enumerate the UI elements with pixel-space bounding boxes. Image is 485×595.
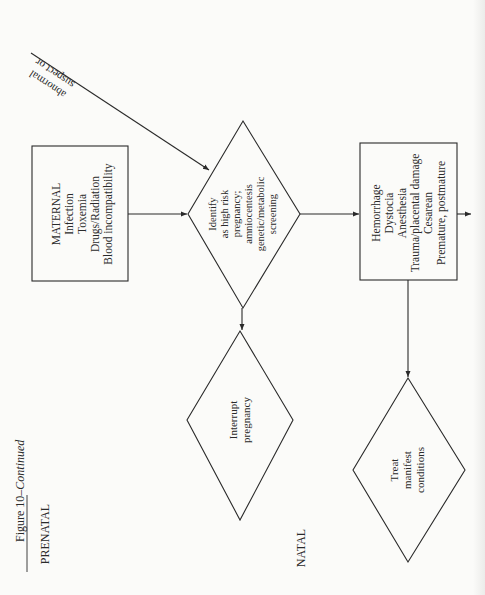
treat-line: Treat xyxy=(388,430,401,510)
treat-line: manifest xyxy=(401,430,414,510)
maternal-item: Blood incompatibility xyxy=(102,146,115,282)
identify-line: Identify xyxy=(207,169,219,259)
section-label-prenatal: PRENATAL xyxy=(38,499,52,569)
maternal-item: Toxemia xyxy=(76,146,89,282)
interrupt-line: pregnancy xyxy=(240,380,253,460)
maternal-item: Infection xyxy=(63,146,76,282)
identify-line: pregnancy; xyxy=(231,169,243,259)
figure-caption: Figure 10–Continued xyxy=(13,442,27,542)
identify-line: screening xyxy=(267,169,279,259)
identify-diamond: Identify as high risk pregnancy; amnioce… xyxy=(207,169,279,259)
treat-line: conditions xyxy=(414,430,427,510)
identify-line: genetic/metabolic xyxy=(255,169,267,259)
maternal-box: MATERNAL Infection Toxemia Drugs/Radiati… xyxy=(50,146,110,282)
natal-item: Premature, postmature xyxy=(435,145,448,281)
identify-line: as high risk xyxy=(219,169,231,259)
natal-item: Trauma/placental damage xyxy=(409,145,422,281)
caption-continued: Continued xyxy=(13,440,27,490)
interrupt-diamond: Interrupt pregnancy xyxy=(227,380,253,460)
section-label-natal: NATAL xyxy=(294,523,308,573)
identify-line: amniocentesis xyxy=(243,169,255,259)
caption-prefix: Figure 10– xyxy=(13,490,27,542)
natal-box: Hemorrhage Dystocia Anesthesia Trauma/pl… xyxy=(370,145,448,281)
interrupt-line: Interrupt xyxy=(227,380,240,460)
treat-diamond: Treat manifest conditions xyxy=(388,430,428,510)
natal-item: Dystocia xyxy=(383,145,396,281)
natal-item: Hemorrhage xyxy=(370,145,383,281)
maternal-title: MATERNAL xyxy=(50,146,63,282)
natal-item: Cesarean xyxy=(422,145,435,281)
natal-item: Anesthesia xyxy=(396,145,409,281)
maternal-item: Drugs/Radiation xyxy=(89,146,102,282)
